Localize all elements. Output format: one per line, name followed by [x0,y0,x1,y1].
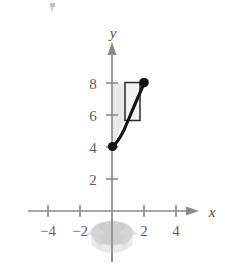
x-axis [28,207,199,216]
x-tick-label-neg4: −4 [40,223,56,239]
x-tick-label-neg2: −2 [72,223,88,239]
x-axis-label: x [208,204,216,220]
y-tick-label-6: 6 [89,108,97,124]
curve-endpoint-right [139,78,149,88]
curve-endpoint-left [108,142,117,151]
x-tick-label-4: 4 [172,223,180,239]
figure-container: −4 −2 2 4 2 4 6 8 y x [0,0,225,266]
x-tick-label-2: 2 [140,223,148,239]
y-tick-label-8: 8 [89,76,97,92]
scan-corner-mark [50,3,55,11]
coordinate-plane-diagram: −4 −2 2 4 2 4 6 8 y x [0,0,225,266]
y-axis-label: y [108,25,117,41]
y-tick-label-4: 4 [89,140,97,156]
y-tick-label-2: 2 [89,172,97,188]
